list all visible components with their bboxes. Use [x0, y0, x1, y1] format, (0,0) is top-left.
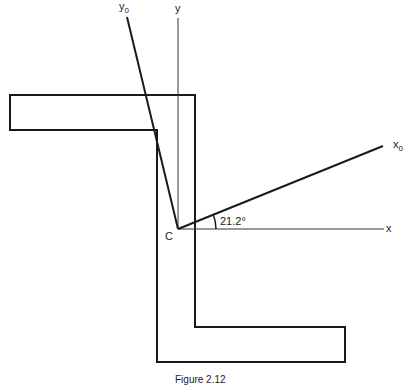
figure-caption: Figure 2.12 [175, 375, 226, 385]
angle-label: 21.2° [220, 216, 246, 227]
y-axis-label: y [175, 3, 181, 14]
x0-axis-label: x0 [393, 139, 403, 153]
x0-axis-line [178, 146, 383, 229]
centroid-label: C [165, 231, 173, 242]
y0-axis-label: y0 [119, 1, 129, 15]
x-axis-label: x [386, 223, 392, 234]
y0-axis-line [127, 17, 178, 229]
angle-arc [213, 214, 216, 229]
